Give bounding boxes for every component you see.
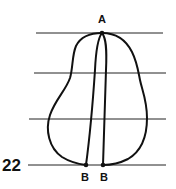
point-b-left-label: B bbox=[81, 172, 89, 183]
right-inner-line bbox=[102, 33, 106, 165]
outline-curves bbox=[48, 33, 147, 165]
points bbox=[84, 31, 106, 168]
point-b-right-marker bbox=[101, 163, 106, 168]
point-b-right-label: B bbox=[100, 172, 108, 183]
point-a-label: A bbox=[98, 14, 106, 25]
left-inner-line bbox=[86, 33, 102, 165]
point-a-marker bbox=[100, 31, 105, 36]
right-outer-curve bbox=[102, 33, 147, 165]
point-b-left-marker bbox=[84, 163, 89, 168]
left-outer-curve bbox=[48, 33, 102, 165]
pear-shaped-diagram bbox=[0, 0, 176, 189]
level-number-label: 22 bbox=[2, 157, 21, 174]
